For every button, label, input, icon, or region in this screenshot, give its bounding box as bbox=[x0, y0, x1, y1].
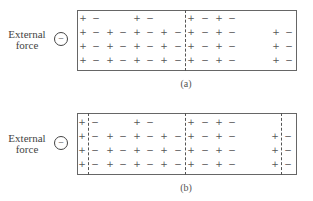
negative-charge: − bbox=[145, 14, 155, 23]
positive-charge: + bbox=[77, 160, 87, 169]
positive-charge: + bbox=[271, 42, 281, 51]
panel-b: External force − (b) +−+−+−+−+−+−+−+−+−+… bbox=[0, 100, 313, 201]
negative-charge: − bbox=[200, 56, 210, 65]
positive-charge: + bbox=[132, 28, 142, 37]
positive-charge: + bbox=[186, 132, 196, 141]
caption-b: (b) bbox=[171, 182, 201, 193]
positive-charge: + bbox=[214, 42, 224, 51]
negative-charge: − bbox=[118, 56, 128, 65]
negative-charge: − bbox=[118, 160, 128, 169]
negative-charge: − bbox=[90, 160, 100, 169]
external-force-line2: force bbox=[2, 40, 52, 51]
negative-charge: − bbox=[173, 146, 183, 155]
positive-charge: + bbox=[271, 28, 281, 37]
positive-charge: + bbox=[105, 56, 115, 65]
negative-charge: − bbox=[200, 146, 210, 155]
positive-charge: + bbox=[77, 118, 87, 127]
dashed-boundary-line bbox=[185, 10, 186, 71]
negative-charge: − bbox=[227, 14, 237, 23]
caption-a: (a) bbox=[171, 78, 201, 89]
positive-charge: + bbox=[105, 42, 115, 51]
charge-symbol: − bbox=[55, 138, 67, 148]
negative-charge-icon: − bbox=[54, 32, 68, 46]
negative-charge: − bbox=[283, 132, 293, 141]
negative-charge: − bbox=[227, 56, 237, 65]
positive-charge: + bbox=[159, 132, 169, 141]
negative-charge: − bbox=[200, 160, 210, 169]
negative-charge: − bbox=[118, 132, 128, 141]
negative-charge: − bbox=[200, 118, 210, 127]
negative-charge: − bbox=[200, 14, 210, 23]
external-force-label-a: External force bbox=[2, 29, 52, 51]
positive-charge: + bbox=[270, 160, 280, 169]
negative-charge: − bbox=[227, 132, 237, 141]
negative-charge: − bbox=[173, 132, 183, 141]
negative-charge: − bbox=[91, 42, 101, 51]
negative-charge: − bbox=[227, 28, 237, 37]
negative-charge: − bbox=[91, 28, 101, 37]
negative-charge: − bbox=[173, 42, 183, 51]
negative-charge: − bbox=[90, 146, 100, 155]
negative-charge: − bbox=[284, 56, 294, 65]
negative-charge: − bbox=[145, 28, 155, 37]
negative-charge: − bbox=[145, 146, 155, 155]
negative-charge: − bbox=[91, 56, 101, 65]
positive-charge: + bbox=[105, 160, 115, 169]
positive-charge: + bbox=[132, 118, 142, 127]
negative-charge: − bbox=[227, 118, 237, 127]
positive-charge: + bbox=[77, 146, 87, 155]
positive-charge: + bbox=[132, 146, 142, 155]
negative-charge: − bbox=[173, 28, 183, 37]
negative-charge: − bbox=[200, 28, 210, 37]
positive-charge: + bbox=[105, 132, 115, 141]
positive-charge: + bbox=[159, 42, 169, 51]
negative-charge: − bbox=[90, 118, 100, 127]
negative-charge: − bbox=[284, 42, 294, 51]
negative-charge: − bbox=[200, 42, 210, 51]
positive-charge: + bbox=[78, 14, 88, 23]
negative-charge: − bbox=[91, 14, 101, 23]
external-force-line2: force bbox=[2, 144, 52, 155]
positive-charge: + bbox=[159, 146, 169, 155]
positive-charge: + bbox=[159, 28, 169, 37]
positive-charge: + bbox=[105, 28, 115, 37]
negative-charge: − bbox=[284, 28, 294, 37]
positive-charge: + bbox=[186, 160, 196, 169]
negative-charge-icon: − bbox=[54, 136, 68, 150]
positive-charge: + bbox=[270, 146, 280, 155]
positive-charge: + bbox=[186, 28, 196, 37]
panel-a: External force − (a) +−+−+−+−+−+−+−+−+−+… bbox=[0, 0, 313, 100]
positive-charge: + bbox=[214, 56, 224, 65]
positive-charge: + bbox=[186, 42, 196, 51]
positive-charge: + bbox=[214, 14, 224, 23]
positive-charge: + bbox=[77, 132, 87, 141]
positive-charge: + bbox=[105, 146, 115, 155]
positive-charge: + bbox=[271, 56, 281, 65]
positive-charge: + bbox=[214, 132, 224, 141]
negative-charge: − bbox=[145, 118, 155, 127]
negative-charge: − bbox=[145, 42, 155, 51]
negative-charge: − bbox=[283, 146, 293, 155]
positive-charge: + bbox=[132, 56, 142, 65]
negative-charge: − bbox=[145, 160, 155, 169]
dashed-boundary-line bbox=[185, 113, 186, 175]
negative-charge: − bbox=[118, 42, 128, 51]
positive-charge: + bbox=[214, 146, 224, 155]
negative-charge: − bbox=[227, 160, 237, 169]
positive-charge: + bbox=[214, 160, 224, 169]
positive-charge: + bbox=[214, 118, 224, 127]
negative-charge: − bbox=[145, 56, 155, 65]
external-force-label-b: External force bbox=[2, 133, 52, 155]
positive-charge: + bbox=[78, 28, 88, 37]
positive-charge: + bbox=[159, 56, 169, 65]
negative-charge: − bbox=[118, 146, 128, 155]
positive-charge: + bbox=[186, 56, 196, 65]
dashed-boundary-line bbox=[281, 113, 282, 175]
positive-charge: + bbox=[132, 132, 142, 141]
positive-charge: + bbox=[78, 42, 88, 51]
negative-charge: − bbox=[173, 160, 183, 169]
negative-charge: − bbox=[90, 132, 100, 141]
positive-charge: + bbox=[132, 14, 142, 23]
positive-charge: + bbox=[186, 118, 196, 127]
negative-charge: − bbox=[227, 42, 237, 51]
